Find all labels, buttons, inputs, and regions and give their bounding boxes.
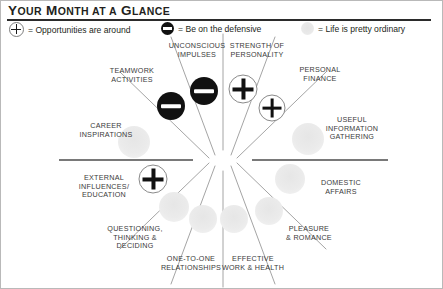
marker-strength-of-personality <box>229 75 258 104</box>
marker-teamwork-activities <box>157 92 185 120</box>
marker-questioning-thinking-deciding <box>159 192 189 222</box>
marker-unconscious-impulses <box>190 77 218 105</box>
month-at-a-glance-page: YOUR MONTH AT A GLANCE = Opportunities a… <box>0 0 443 289</box>
sector-label-personal-finance: PERSONAL FINANCE <box>299 66 340 83</box>
sector-label-external-influences-education: EXTERNAL INFLUENCES/ EDUCATION <box>79 174 129 200</box>
page-title: YOUR MONTH AT A GLANCE <box>8 3 170 18</box>
marker-pleasure-romance <box>255 197 283 225</box>
sector-label-pleasure-romance: PLEASURE & ROMANCE <box>286 225 332 242</box>
sector-label-questioning-thinking-deciding: QUESTIONING, THINKING & DECIDING <box>107 225 162 251</box>
marker-external-influences-education <box>139 165 168 194</box>
sector-label-strength-of-personality: STRENGTH OF PERSONALITY <box>230 42 284 59</box>
sector-label-unconscious-impulses: UNCONSCIOUS IMPULSES <box>169 42 226 59</box>
wheel-spokes <box>1 29 443 289</box>
month-wheel: TEAMWORK ACTIVITIES UNCONSCIOUS IMPULSES… <box>1 29 443 289</box>
marker-useful-information-gathering <box>292 123 324 155</box>
sector-label-career-inspirations: CAREER INSPIRATIONS <box>79 122 132 139</box>
sector-label-effective-work-health: EFFECTIVE WORK & HEALTH <box>222 255 284 272</box>
marker-domestic-affairs <box>275 164 305 194</box>
sector-label-domestic-affairs: DOMESTIC AFFAIRS <box>321 179 361 196</box>
sector-label-useful-information-gathering: USEFUL INFORMATION GATHERING <box>326 116 379 142</box>
marker-effective-work-health <box>220 205 248 233</box>
sector-label-teamwork-activities: TEAMWORK ACTIVITIES <box>110 67 154 84</box>
title-divider <box>7 19 431 21</box>
marker-personal-finance <box>259 95 286 122</box>
marker-one-to-one-relationships <box>189 205 217 233</box>
sector-label-one-to-one-relationships: ONE-TO-ONE RELATIONSHIPS <box>161 255 221 272</box>
